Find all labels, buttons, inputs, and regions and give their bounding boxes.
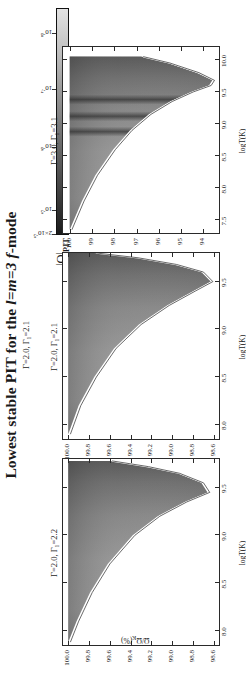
y-tickmark — [70, 47, 71, 51]
ylabel-pre: Ω/Ω — [136, 636, 149, 645]
y-ticklabel: 99.6 — [105, 444, 113, 466]
x-tickmark — [63, 582, 67, 583]
x-tickmark — [215, 582, 219, 583]
y-tickmark — [193, 253, 194, 257]
panel-middle-tag: Γ=2.0, Γ₁=2.1 — [49, 254, 59, 440]
y-tickmark — [114, 229, 115, 233]
panel-middle: Γ=2.0, Γ₁=2.1 logT(K) 8.08.59.09.5100.09… — [62, 254, 218, 440]
y-ticklabel: 97 — [132, 238, 140, 260]
y-tickmark — [137, 47, 138, 51]
y-ticklabel: 100.0 — [63, 444, 71, 466]
panel-right-plot — [62, 46, 220, 234]
x-tickmark — [63, 376, 67, 377]
panel-left-ylabel: Ω/ΩK(%) — [85, 635, 185, 646]
y-tickmark — [193, 435, 194, 439]
y-tickmark — [137, 229, 138, 233]
y-ticklabel: 96 — [154, 238, 162, 260]
y-ticklabel: 99.2 — [146, 444, 154, 466]
figure-canvas: Lowest stable PIT for the l=m=3 f-mode Γ… — [0, 0, 246, 690]
panel-middle-xlabel: logT(K) — [238, 254, 246, 440]
x-tickmark — [215, 328, 219, 329]
x-ticklabel: 10.0 — [220, 55, 228, 67]
x-ticklabel: 7.5 — [220, 217, 228, 226]
x-tickmark — [63, 155, 67, 156]
x-tickmark — [215, 219, 219, 220]
y-tickmark — [203, 47, 204, 51]
y-ticklabel: 99.0 — [167, 444, 175, 466]
y-tickmark — [181, 229, 182, 233]
x-tickmark — [215, 59, 219, 60]
x-ticklabel: 9.0 — [220, 532, 228, 541]
panel-right-xlabel: logT(K) — [238, 48, 246, 234]
x-ticklabel: 8.5 — [220, 374, 228, 383]
y-ticklabel: 98.6 — [209, 650, 217, 672]
x-tickmark — [215, 91, 219, 92]
x-tickmark — [215, 123, 219, 124]
x-tickmark — [63, 91, 67, 92]
panel-left-xlabel: logT(K) — [238, 460, 246, 646]
y-tickmark — [214, 253, 215, 257]
x-tickmark — [215, 424, 219, 425]
y-ticklabel: 98 — [109, 238, 117, 260]
figure-title: Lowest stable PIT for the l=m=3 f-mode — [2, 0, 20, 690]
x-ticklabel: 8.0 — [220, 421, 228, 430]
x-tickmark — [63, 219, 67, 220]
y-tickmark — [159, 47, 160, 51]
y-tickmark — [193, 641, 194, 645]
y-tickmark — [92, 229, 93, 233]
y-tickmark — [203, 229, 204, 233]
x-ticklabel: 8.0 — [220, 185, 228, 194]
x-ticklabel: 9.5 — [220, 484, 228, 493]
y-ticklabel: 98.8 — [188, 444, 196, 466]
x-tickmark — [63, 534, 67, 535]
y-tickmark — [70, 229, 71, 233]
x-tickmark — [215, 187, 219, 188]
x-tickmark — [63, 187, 67, 188]
x-tickmark — [215, 281, 219, 282]
x-ticklabel: 9.5 — [220, 89, 228, 98]
panel-left-plot — [62, 458, 220, 646]
y-ticklabel: 99.4 — [126, 444, 134, 466]
y-tickmark — [92, 47, 93, 51]
y-ticklabel: 99.4 — [126, 650, 134, 672]
panel-left-tag: Γ=2.0, Γ₁=2.2 — [49, 460, 59, 646]
y-tickmark — [131, 435, 132, 439]
ylabel-post: (%) — [121, 636, 132, 645]
x-tickmark — [63, 59, 67, 60]
y-tickmark — [172, 253, 173, 257]
x-tickmark — [215, 376, 219, 377]
x-ticklabel: 8.5 — [220, 153, 228, 162]
x-tickmark — [215, 534, 219, 535]
x-tickmark — [215, 630, 219, 631]
y-ticklabel: 99.2 — [146, 650, 154, 672]
y-ticklabel: 98.6 — [209, 444, 217, 466]
y-ticklabel: 99.0 — [167, 650, 175, 672]
x-tickmark — [63, 487, 67, 488]
y-ticklabel: 95 — [176, 238, 184, 260]
x-tickmark — [63, 424, 67, 425]
x-ticklabel: 9.5 — [220, 278, 228, 287]
x-ticklabel: 9.0 — [220, 326, 228, 335]
y-tickmark — [159, 229, 160, 233]
y-ticklabel: 99.6 — [105, 650, 113, 672]
y-ticklabel: 99 — [87, 238, 95, 260]
y-tickmark — [68, 435, 69, 439]
x-tickmark — [63, 328, 67, 329]
x-ticklabel: 9.0 — [220, 121, 228, 130]
panel-middle-plot — [62, 252, 220, 440]
y-tickmark — [214, 435, 215, 439]
x-tickmark — [63, 123, 67, 124]
y-tickmark — [89, 435, 90, 439]
x-tickmark — [63, 630, 67, 631]
x-tickmark — [215, 487, 219, 488]
y-tickmark — [114, 47, 115, 51]
ylabel-sub: K — [132, 635, 136, 641]
y-ticklabel: 100 — [65, 238, 73, 260]
figure-title-pre: Lowest stable PIT for the — [2, 305, 19, 479]
figure-root: Lowest stable PIT for the l=m=3 f-mode Γ… — [0, 0, 246, 690]
y-tickmark — [151, 253, 152, 257]
y-tickmark — [151, 435, 152, 439]
y-ticklabel: 100.0 — [63, 650, 71, 672]
panel-right: Γ=3.0, Γ₁=3.1 logT(K) 7.58.08.59.09.510.… — [62, 48, 218, 234]
y-tickmark — [181, 47, 182, 51]
